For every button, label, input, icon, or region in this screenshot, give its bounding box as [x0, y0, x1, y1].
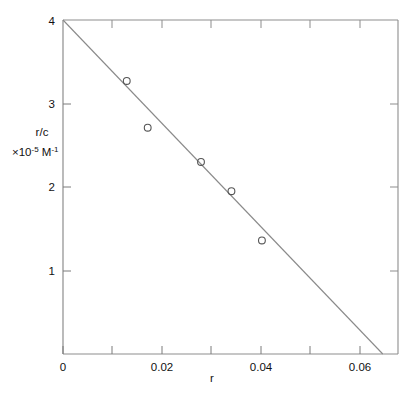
x-axis-title: r [210, 372, 214, 384]
y-axis-title-unit-exp: -1 [51, 145, 59, 154]
data-point [144, 124, 151, 131]
y-axis-title-prefix: ×10 [12, 146, 32, 158]
data-points [123, 78, 265, 244]
y-axis-title-unit: M [42, 146, 52, 158]
data-point [259, 237, 266, 244]
scatter-plot: 0 0.02 0.04 0.06 1 2 3 4 r r/c ×10-5 M-1 [0, 0, 415, 395]
data-point [228, 188, 235, 195]
y-tick-label-3: 3 [49, 98, 55, 110]
plot-frame [63, 20, 398, 354]
y-axis-ticks [63, 104, 71, 271]
chart-figure: 0 0.02 0.04 0.06 1 2 3 4 r r/c ×10-5 M-1 [0, 0, 415, 395]
y-axis-title-rc: r/c [36, 126, 49, 138]
y-tick-label-2: 2 [49, 181, 55, 193]
x-tick-label-2: 0.04 [250, 361, 273, 373]
x-tick-label-0: 0 [60, 361, 66, 373]
y-axis-title-line1: r/c [36, 126, 49, 138]
y-axis-title-line2: ×10-5 M-1 [12, 145, 59, 158]
x-axis-ticks [63, 346, 360, 354]
y-tick-label-1: 1 [49, 265, 55, 277]
x-tick-label-1: 0.02 [151, 361, 173, 373]
right-axis-ticks [390, 104, 398, 271]
data-point [123, 78, 130, 85]
x-tick-label-3: 0.06 [349, 361, 371, 373]
y-tick-label-4: 4 [49, 15, 56, 27]
top-axis-ticks [112, 20, 360, 28]
fit-line [63, 20, 383, 354]
